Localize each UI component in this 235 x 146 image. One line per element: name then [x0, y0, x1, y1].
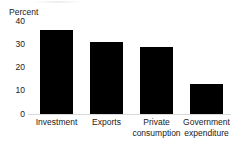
- category-label: Private consumption: [129, 117, 185, 139]
- bar: [90, 42, 123, 114]
- category-label: Government expenditure: [179, 117, 235, 139]
- scan-artifact: [33, 1, 83, 3]
- x-axis-baseline: [28, 114, 231, 115]
- y-tick-label: 20: [3, 63, 25, 72]
- plot-area: [28, 21, 231, 114]
- y-tick-label: 0: [3, 110, 25, 119]
- category-label: Exports: [79, 117, 135, 128]
- y-tick-label: 10: [3, 86, 25, 95]
- bar: [140, 47, 173, 114]
- category-label: Investment: [29, 117, 85, 128]
- bar: [40, 30, 73, 114]
- y-tick-label: 40: [3, 17, 25, 26]
- y-tick-label: 30: [3, 40, 25, 49]
- bar: [190, 84, 223, 114]
- bar-chart: Percent 403020100 InvestmentExportsPriva…: [0, 0, 235, 146]
